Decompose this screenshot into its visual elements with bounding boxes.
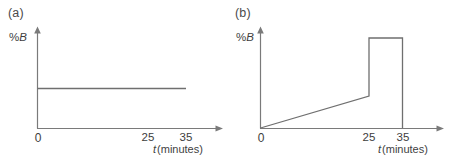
panel-b-tick-25: 25 xyxy=(363,131,376,143)
panel-a-y-axis-label-prefix: % xyxy=(9,31,19,43)
figure-root: (a) %B t(minutes) 0 25 35 (b) xyxy=(0,0,461,166)
panel-a-x-axis-label-unit: (minutes) xyxy=(157,143,203,155)
panel-b: (b) %B t(minutes) 0 25 35 xyxy=(230,0,461,166)
panel-a: (a) %B t(minutes) 0 25 35 xyxy=(0,0,230,166)
panel-a-tick-35: 35 xyxy=(180,131,193,143)
panel-a-y-axis xyxy=(34,27,41,129)
panel-b-y-axis xyxy=(257,27,264,129)
panel-b-x-axis xyxy=(260,125,444,131)
panel-b-tick-0: 0 xyxy=(258,131,265,145)
panel-b-y-axis-label-symbol: B xyxy=(246,31,254,43)
panel-a-tick-25: 25 xyxy=(142,131,155,143)
panel-a-y-axis-label-symbol: B xyxy=(19,31,27,43)
panel-b-data-trace xyxy=(261,38,403,128)
panel-a-y-axis-label: %B xyxy=(9,31,27,43)
panel-b-x-axis-label: t(minutes) xyxy=(378,143,428,155)
panel-b-tag: (b) xyxy=(235,6,251,20)
panel-b-x-axis-label-unit: (minutes) xyxy=(382,143,428,155)
panel-a-tick-0: 0 xyxy=(35,131,42,145)
panel-a-tag: (a) xyxy=(8,6,24,20)
panel-a-x-axis xyxy=(37,125,223,131)
panel-b-y-axis-label-prefix: % xyxy=(236,31,246,43)
panel-b-tick-35: 35 xyxy=(397,131,410,143)
panel-a-x-axis-label: t(minutes) xyxy=(153,143,203,155)
panel-b-y-axis-label: %B xyxy=(236,31,254,43)
